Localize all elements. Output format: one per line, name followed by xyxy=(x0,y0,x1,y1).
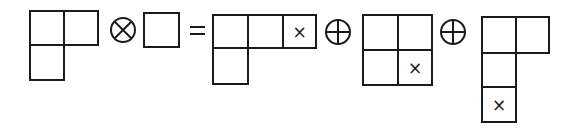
direct-sum-icon xyxy=(441,20,465,44)
direct-sum-icon xyxy=(326,20,350,44)
equals-icon xyxy=(190,27,205,34)
cell xyxy=(30,45,64,80)
cross-marker: × xyxy=(492,95,506,115)
young-diagram-1 xyxy=(144,13,179,47)
cell xyxy=(213,15,248,48)
tensor-product-icon xyxy=(111,18,135,42)
cell xyxy=(213,48,248,84)
cell xyxy=(363,50,398,85)
cell xyxy=(516,17,549,53)
young-diagram-2-2: × xyxy=(363,15,432,85)
cross-marker: × xyxy=(408,58,422,78)
equation-canvas: × × × xyxy=(0,0,583,132)
cell xyxy=(398,15,432,50)
young-diagram-3-1: × xyxy=(213,15,316,84)
cell xyxy=(30,11,64,45)
cell xyxy=(482,17,516,53)
cell xyxy=(248,15,283,48)
cell xyxy=(482,53,516,87)
young-diagram-2-1 xyxy=(30,11,98,80)
cross-marker: × xyxy=(292,22,306,42)
cell xyxy=(363,15,398,50)
young-diagram-2-1-1: × xyxy=(482,17,549,122)
cell xyxy=(64,11,98,45)
cell xyxy=(144,13,179,47)
